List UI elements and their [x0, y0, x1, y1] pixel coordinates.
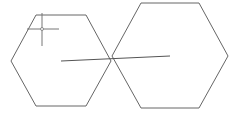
right-hexagon[interactable] — [112, 3, 228, 108]
drawing-canvas[interactable] — [0, 0, 241, 117]
crosshair-cursor-icon — [27, 13, 59, 46]
connector-line[interactable] — [61, 56, 170, 61]
